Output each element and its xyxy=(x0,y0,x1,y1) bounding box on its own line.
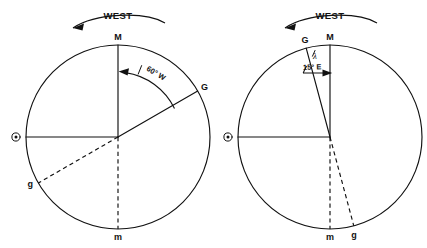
sun-symbol-right xyxy=(224,133,232,141)
dashed-radius-to-g-left xyxy=(38,137,118,183)
right-diagram: WEST λ 15° E xyxy=(224,10,422,242)
lambda-label-right: λ xyxy=(312,51,317,61)
label-m-lower-right: m xyxy=(326,232,334,242)
label-m-upper-left: M xyxy=(114,32,122,42)
label-g-lower-left: g xyxy=(28,179,34,189)
figure-canvas: WEST 60° W xyxy=(0,0,427,248)
radius-to-g-left xyxy=(118,91,198,137)
left-diagram: WEST 60° W xyxy=(12,10,210,242)
longitude-diagram-svg: WEST 60° W xyxy=(0,0,427,248)
angle-label-right: 15° E xyxy=(303,62,322,72)
label-m-lower-left: m xyxy=(114,232,122,242)
label-g-upper-left: G xyxy=(201,82,208,92)
label-g-upper-right: G xyxy=(301,35,308,45)
dashed-radius-to-g-right xyxy=(330,137,354,226)
label-g-lower-right: g xyxy=(351,230,357,240)
west-label-right: WEST xyxy=(315,10,344,21)
west-label-left: WEST xyxy=(103,10,132,21)
sun-symbol-left xyxy=(12,133,20,141)
label-m-upper-right: M xyxy=(326,32,334,42)
radius-to-g-right xyxy=(306,48,330,137)
